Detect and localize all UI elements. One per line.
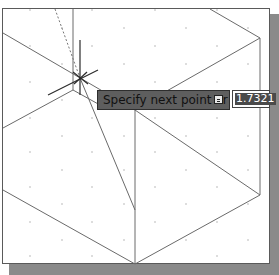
length-value[interactable]: 1.7321 xyxy=(235,93,276,105)
dynamic-input-prompt: Specify next point or xyxy=(97,90,230,110)
drawing-geometry xyxy=(0,0,279,275)
options-down-arrow-icon[interactable] xyxy=(214,95,223,104)
cube-edges xyxy=(3,9,260,264)
tracking-line xyxy=(55,9,80,78)
length-input[interactable]: 1.7321 xyxy=(232,90,270,108)
prompt-label: Specify next point or xyxy=(103,93,228,107)
